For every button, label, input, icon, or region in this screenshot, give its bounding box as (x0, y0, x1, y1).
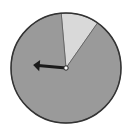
spinner-hub (64, 66, 68, 70)
spinner (0, 0, 130, 132)
